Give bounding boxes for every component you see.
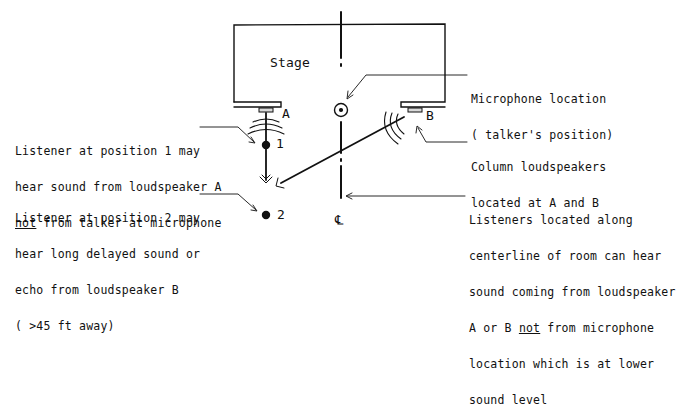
speaker-a-icon <box>259 108 273 112</box>
callout-centerline-line6: sound level <box>469 394 676 406</box>
stage-front-left <box>234 102 281 107</box>
callout-centerline-line3: sound coming from loudspeaker <box>469 286 676 298</box>
centerline-symbol: ℄ <box>335 214 343 226</box>
leader-microphone <box>348 75 467 97</box>
callout-centerline-line4: A or B not from microphone <box>469 322 676 334</box>
callout-microphone-line1: Microphone location <box>471 93 613 105</box>
callout-listener-2-line1: Listener at position 2 may <box>15 212 200 224</box>
callout-centerline-line4-rest: from microphone <box>540 321 654 335</box>
callout-loudspeakers-line1: Column loudspeakers <box>471 161 606 173</box>
speaker-b-label: B <box>426 110 434 122</box>
microphone-icon <box>335 104 348 117</box>
path-b-to-listener2 <box>281 117 404 183</box>
emphasis-not: not <box>519 321 540 335</box>
stage-outline <box>234 24 445 107</box>
callout-listener-2: Listener at position 2 may hear long del… <box>15 188 200 344</box>
stage-label: Stage <box>270 57 310 69</box>
sound-waves-b-icon <box>385 112 405 144</box>
leader-loudspeakers <box>418 128 467 142</box>
listener-2-dot <box>263 212 270 219</box>
callout-centerline-line5: location which is at lower <box>469 358 676 370</box>
callout-listener-2-line4: ( >45 ft away) <box>15 320 200 332</box>
callout-listener-2-line2: hear long delayed sound or <box>15 248 200 260</box>
speaker-b-icon <box>408 108 422 112</box>
callout-listener-1-line1: Listener at position 1 may <box>15 145 222 157</box>
listener-1-dot <box>263 142 270 149</box>
callout-centerline-line4-start: A or B <box>469 321 519 335</box>
callout-centerline-line1: Listeners located along <box>469 214 676 226</box>
callout-centerline: Listeners located along centerline of ro… <box>469 190 676 408</box>
callout-centerline-line2: centerline of room can hear <box>469 250 676 262</box>
callout-listener-2-line3: echo from loudspeaker B <box>15 284 200 296</box>
speaker-a-label: A <box>282 108 290 120</box>
position-2-label: 2 <box>277 209 285 221</box>
position-1-label: 1 <box>276 138 284 150</box>
